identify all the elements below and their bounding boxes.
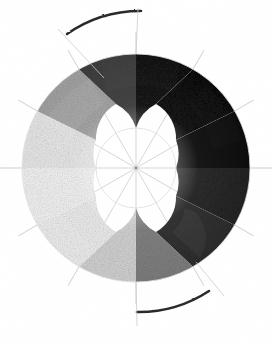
- guide-line-bottom: [136, 282, 137, 326]
- arc-mark-bottom-right-icon: [137, 291, 209, 312]
- grayscale-value-wheel: [0, 0, 277, 344]
- arc-mark-top-left-icon: [67, 11, 141, 34]
- center-pivot-mark: [135, 167, 138, 170]
- artwork-canvas: [0, 0, 277, 344]
- guide-line-top: [136, 8, 138, 54]
